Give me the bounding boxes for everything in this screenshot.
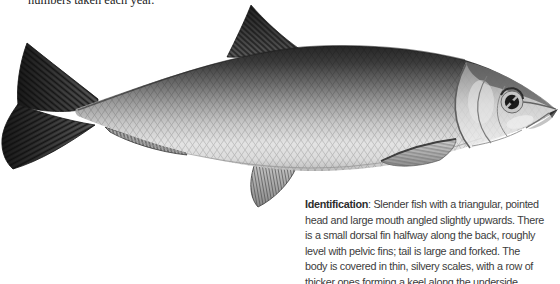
eye: [501, 88, 523, 113]
operculum-highlight: [468, 80, 494, 124]
identification-line-2: head and large mouth angled slightly upw…: [305, 213, 560, 229]
identification-line-4: level with pelvic fins; tail is large an…: [305, 244, 560, 260]
identification-line-6: thicker ones forming a keel along the un…: [305, 275, 560, 284]
tail-fin: [2, 43, 98, 169]
identification-line-1: Identification: Slender fish with a tria…: [305, 197, 560, 213]
eye-center-dot: [510, 100, 514, 104]
identification-line-3: is a small dorsal fin halfway along the …: [305, 228, 560, 244]
identification-line-5: body is covered in thin, silvery scales,…: [305, 259, 560, 275]
tail-fin-upper-striations: [17, 43, 98, 112]
identification-label: Identification: [305, 198, 368, 210]
page: numbers taken each year.: [0, 0, 560, 284]
identification-block: Identification: Slender fish with a tria…: [305, 197, 560, 284]
identification-line-1-text: : Slender fish with a triangular, pointe…: [368, 198, 539, 210]
